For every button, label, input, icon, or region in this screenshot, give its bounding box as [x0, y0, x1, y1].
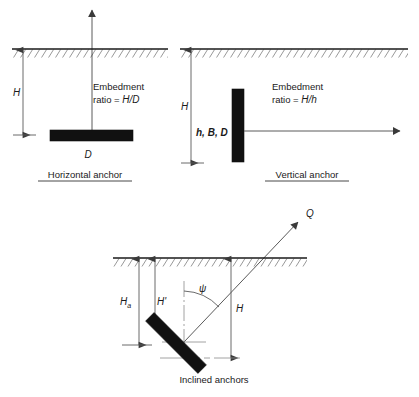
- anchor-plate-inclined: [146, 313, 207, 374]
- embedment-ratio-value: H/D: [122, 94, 139, 105]
- embedment-ratio-horizontal: Embedment ratio = H/D: [93, 81, 145, 105]
- depth-dimension-H-inclined: H: [231, 259, 244, 358]
- ground-surface-vertical: [180, 49, 408, 58]
- caption-vertical-anchor: Vertical anchor: [265, 169, 349, 181]
- ground-hatching-inclined: [113, 259, 307, 267]
- load-label-inclined: Q: [306, 208, 314, 219]
- embedment-ratio-prefix-vertical: ratio =: [272, 94, 301, 105]
- embedment-ratio-prefix: ratio =: [93, 94, 122, 105]
- depth-label-vertical: H: [181, 101, 189, 112]
- caption-text-horizontal: Horizontal anchor: [48, 169, 122, 180]
- depth-dimension-vertical: H: [181, 50, 204, 163]
- ground-hatching: [12, 50, 168, 58]
- ground-surface-inclined: [113, 258, 307, 267]
- panel-vertical-anchor: H h, B, D Embedment ratio = H/h Vertical…: [180, 49, 408, 181]
- angle-label-psi: ψ: [199, 283, 207, 294]
- embedment-ratio-value-vertical: H/h: [301, 94, 317, 105]
- panel-inclined-anchors: Q Ha H' H ψ: [113, 208, 314, 385]
- caption-text-vertical: Vertical anchor: [276, 169, 339, 180]
- depth-label-H-inclined: H: [236, 303, 244, 314]
- depth-label-Hprime: H': [157, 296, 167, 307]
- ground-hatching-vertical: [180, 50, 408, 58]
- figure-canvas: H D Embedment ratio = H/D Horizontal anc…: [0, 0, 419, 397]
- caption-text-inclined: Inclined anchors: [179, 374, 248, 385]
- depth-label-horizontal: H: [13, 87, 21, 98]
- panel-horizontal-anchor: H D Embedment ratio = H/D Horizontal anc…: [12, 10, 168, 181]
- anchor-embedment-figure: H D Embedment ratio = H/D Horizontal anc…: [0, 0, 419, 397]
- ground-surface-horizontal: [12, 49, 168, 58]
- depth-dimension-Ha: Ha: [120, 259, 152, 345]
- embedment-ratio-line1: Embedment: [93, 81, 145, 92]
- anchor-plate-vertical: [232, 89, 244, 162]
- anchor-plate-horizontal: [50, 130, 133, 141]
- depth-dimension-horizontal: H: [13, 50, 36, 135]
- caption-horizontal-anchor: Horizontal anchor: [38, 169, 132, 181]
- embedment-ratio-line1-vertical: Embedment: [272, 81, 324, 92]
- svg-text:ratio = H/h: ratio = H/h: [272, 94, 317, 105]
- depth-label-Ha: Ha: [120, 296, 131, 309]
- embedment-ratio-vertical: Embedment ratio = H/h: [272, 81, 324, 105]
- plate-dims-label-vertical: h, B, D: [196, 127, 228, 138]
- depth-dimension-Hprime: H': [155, 259, 167, 323]
- svg-text:ratio = H/D: ratio = H/D: [93, 94, 140, 105]
- plate-width-label-horizontal: D: [84, 149, 91, 160]
- load-arrow-inclined: [184, 222, 298, 342]
